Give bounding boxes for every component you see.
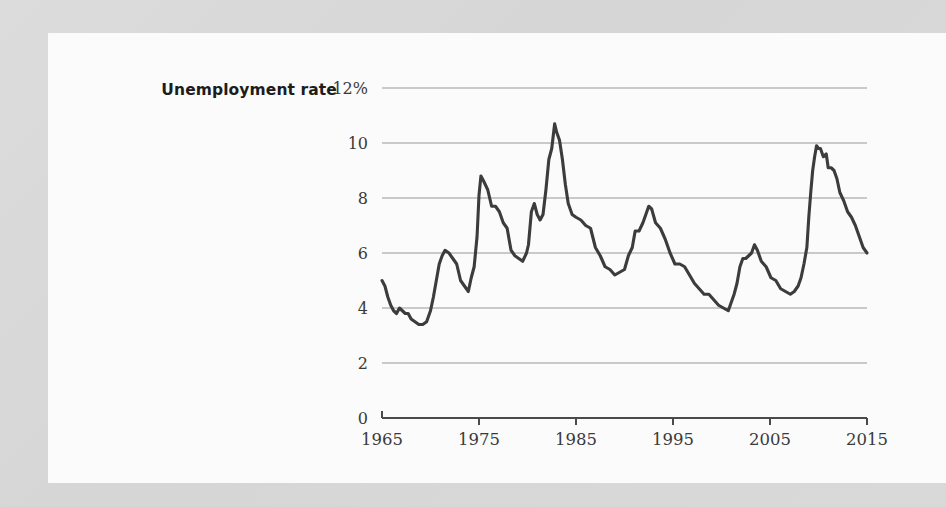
y-tick-label-0: 0 bbox=[358, 409, 368, 428]
gridlines-group bbox=[382, 88, 867, 363]
x-tick-label-1995: 1995 bbox=[652, 430, 694, 449]
y-tick-label-6: 6 bbox=[358, 244, 368, 263]
x-tick-label-2015: 2015 bbox=[846, 430, 888, 449]
x-tick-label-1965: 1965 bbox=[361, 430, 403, 449]
y-tick-label-4: 4 bbox=[358, 299, 368, 318]
x-tick-label-1975: 1975 bbox=[458, 430, 500, 449]
x-tick-label-1985: 1985 bbox=[555, 430, 597, 449]
unemployment-rate-series-line bbox=[382, 124, 867, 325]
unemployment-rate-line-chart: Unemployment rate 024681012% 19651975198… bbox=[0, 0, 946, 507]
x-tick-label-2005: 2005 bbox=[749, 430, 791, 449]
y-axis-tick-labels: 024681012% bbox=[332, 79, 368, 428]
x-axis-tick-labels: 196519751985199520052015 bbox=[361, 430, 888, 449]
chart-title: Unemployment rate bbox=[161, 81, 337, 99]
y-tick-label-10: 10 bbox=[348, 134, 368, 153]
y-tick-label-8: 8 bbox=[358, 189, 368, 208]
y-tick-label-2: 2 bbox=[358, 354, 368, 373]
y-tick-label-12: 12% bbox=[332, 79, 368, 98]
x-axis-group bbox=[382, 411, 867, 425]
